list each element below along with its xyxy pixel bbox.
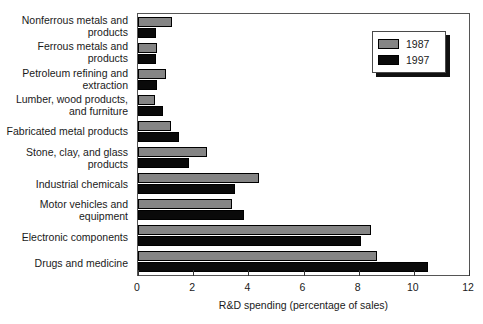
category-axis-labels: Nonferrous metals and products Ferrous m… — [0, 13, 133, 276]
bar-1997 — [138, 158, 189, 168]
bar-group — [138, 223, 469, 249]
x-tick — [138, 270, 139, 276]
bar-1987 — [138, 95, 155, 105]
bar-1987 — [138, 173, 259, 183]
x-tick-label: 2 — [189, 281, 195, 293]
bar-1987 — [138, 199, 232, 209]
bar-1997 — [138, 28, 156, 38]
bar-1997 — [138, 236, 361, 246]
category-label: Stone, clay, and glass products — [0, 144, 133, 170]
bar-1997 — [138, 210, 244, 220]
category-label: Fabricated metal products — [0, 118, 133, 144]
bar-1987 — [138, 17, 172, 27]
category-label: Ferrous metals and products — [0, 39, 133, 65]
legend-label: 1997 — [406, 55, 429, 65]
category-label: Nonferrous metals and products — [0, 13, 133, 39]
bar-1997 — [138, 262, 428, 272]
bar-1997 — [138, 184, 235, 194]
x-tick — [414, 270, 415, 276]
bar-1997 — [138, 54, 156, 64]
bar-1987 — [138, 225, 371, 235]
bar-1987 — [138, 69, 166, 79]
x-tick-label: 4 — [244, 281, 250, 293]
category-label: Motor vehicles and equipment — [0, 197, 133, 223]
category-label: Electronic components — [0, 223, 133, 249]
bar-group — [138, 92, 469, 118]
bar-1997 — [138, 132, 179, 142]
category-label: Lumber, wood products, and furniture — [0, 92, 133, 118]
legend-swatch-1987 — [378, 39, 399, 49]
legend-label: 1987 — [406, 39, 429, 49]
x-axis-title: R&D spending (percentage of sales) — [137, 299, 470, 311]
bar-group — [138, 145, 469, 171]
x-tick — [304, 270, 305, 276]
bar-group — [138, 118, 469, 144]
x-tick-label: 12 — [462, 281, 474, 293]
x-tick-label: 10 — [407, 281, 419, 293]
x-tick-label: 0 — [134, 281, 140, 293]
bar-group — [138, 197, 469, 223]
x-tick — [469, 270, 470, 276]
bar-1997 — [138, 80, 157, 90]
rd-spending-bar-chart: Nonferrous metals and products Ferrous m… — [0, 0, 483, 324]
x-tick — [359, 270, 360, 276]
x-tick-label: 6 — [300, 281, 306, 293]
bar-group — [138, 171, 469, 197]
bar-1987 — [138, 147, 207, 157]
category-label: Industrial chemicals — [0, 171, 133, 197]
bar-1997 — [138, 106, 163, 116]
x-tick — [193, 270, 194, 276]
category-label: Drugs and medicine — [0, 250, 133, 276]
legend-item: 1997 — [378, 52, 440, 68]
x-tick — [248, 270, 249, 276]
x-tick-label: 8 — [355, 281, 361, 293]
legend-item: 1987 — [378, 36, 440, 52]
legend-swatch-1997 — [378, 55, 399, 65]
category-label: Petroleum refining and extraction — [0, 66, 133, 92]
bar-1987 — [138, 43, 157, 53]
chart-legend: 1987 1997 — [372, 31, 446, 73]
bar-1987 — [138, 121, 171, 131]
bar-1987 — [138, 251, 377, 261]
